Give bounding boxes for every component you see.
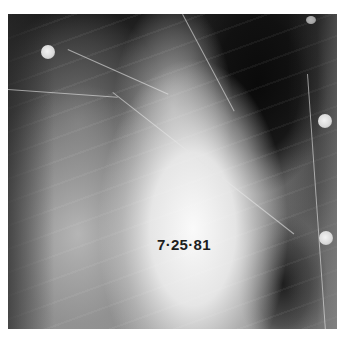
date-label: 7·25·81 [157,236,211,253]
ecg-electrode-icon [306,16,316,24]
chest-xray-image: 7·25·81 [8,14,337,329]
ecg-electrode-icon [41,45,55,59]
ecg-electrode-icon [318,114,332,128]
ecg-electrode-icon [319,231,333,245]
right-edge-shading [8,14,337,329]
